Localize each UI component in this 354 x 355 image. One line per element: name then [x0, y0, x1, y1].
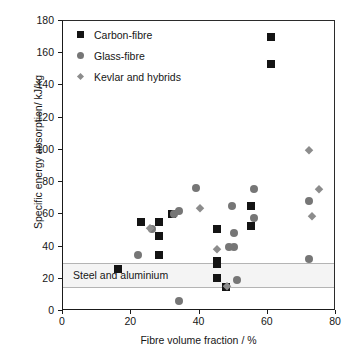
y-axis-tick-mark	[58, 52, 62, 53]
x-axis-tick-mark	[335, 310, 336, 314]
data-point-carbon	[137, 218, 145, 226]
x-axis-tick-mark	[62, 310, 63, 314]
data-point-kevlar	[213, 245, 221, 253]
x-axis-tick-mark	[267, 310, 268, 314]
y-axis-tick-label: 0	[14, 305, 54, 316]
data-point-glass	[305, 255, 313, 263]
data-point-carbon	[267, 33, 275, 41]
x-axis-tick-mark	[199, 310, 200, 314]
data-point-kevlar	[196, 204, 204, 212]
legend-item-label: Kevlar and hybrids	[94, 71, 181, 83]
y-axis-tick-mark	[58, 20, 62, 21]
chart-legend: Carbon-fibreGlass-fibreKevlar and hybrid…	[72, 24, 181, 87]
kevlar-marker-icon	[72, 74, 88, 79]
x-axis-tick-label: 0	[42, 316, 82, 327]
data-point-glass	[230, 243, 238, 251]
data-point-carbon	[114, 265, 122, 273]
x-axis-tick-label: 60	[247, 316, 287, 327]
data-point-carbon	[247, 222, 255, 230]
data-point-carbon	[247, 202, 255, 210]
legend-item-label: Carbon-fibre	[94, 29, 152, 41]
y-axis-tick-mark	[58, 181, 62, 182]
data-point-carbon	[267, 60, 275, 68]
data-point-carbon	[155, 232, 163, 240]
data-point-glass	[228, 202, 236, 210]
data-point-glass	[230, 229, 238, 237]
data-point-glass	[175, 207, 183, 215]
y-axis-tick-mark	[58, 84, 62, 85]
data-point-glass	[192, 184, 200, 192]
x-axis-tick-label: 40	[179, 316, 219, 327]
legend-item-glass: Glass-fibre	[72, 45, 181, 66]
y-axis-tick-mark	[58, 213, 62, 214]
x-axis-tick-label: 20	[110, 316, 150, 327]
data-point-kevlar	[315, 185, 323, 193]
data-point-carbon	[155, 251, 163, 259]
legend-item-kevlar: Kevlar and hybrids	[72, 66, 181, 87]
data-point-glass	[305, 197, 313, 205]
legend-item-carbon: Carbon-fibre	[72, 24, 181, 45]
carbon-marker-icon	[72, 31, 88, 38]
data-point-carbon	[213, 225, 221, 233]
glass-marker-icon	[72, 52, 88, 59]
data-point-carbon	[213, 260, 221, 268]
data-point-kevlar	[308, 212, 316, 220]
y-axis-tick-mark	[58, 246, 62, 247]
x-axis-tick-mark	[130, 310, 131, 314]
data-point-carbon	[213, 274, 221, 282]
y-axis-label: Specific energy absorption/ kJ/kg	[32, 22, 44, 282]
chart-figure: Steel and aluminium 02040608010012014016…	[0, 0, 354, 355]
data-point-glass	[134, 251, 142, 259]
data-point-glass	[175, 297, 183, 305]
x-axis-tick-label: 80	[315, 316, 354, 327]
data-point-glass	[250, 214, 258, 222]
y-axis-tick-mark	[58, 149, 62, 150]
y-axis-tick-mark	[58, 117, 62, 118]
y-axis-tick-mark	[58, 278, 62, 279]
data-point-glass	[250, 185, 258, 193]
x-axis-label: Fibre volume fraction / %	[62, 334, 335, 346]
legend-item-label: Glass-fibre	[94, 50, 145, 62]
data-point-kevlar	[305, 146, 313, 154]
data-point-carbon	[155, 218, 163, 226]
data-point-glass	[233, 276, 241, 284]
